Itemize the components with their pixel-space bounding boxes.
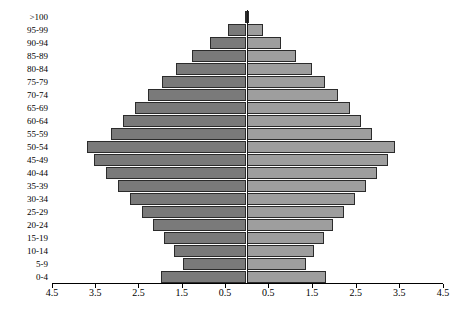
x-axis-tick-label: 4.5	[32, 287, 72, 298]
bar-right	[247, 115, 362, 127]
x-axis-tick-label: 1.5	[292, 287, 332, 298]
y-axis-tick-label: 75-79	[2, 76, 48, 89]
bar-left	[210, 37, 247, 49]
x-axis-tick	[399, 284, 400, 288]
bar-left	[111, 128, 247, 140]
y-axis-tick-label: 65-69	[2, 102, 48, 115]
x-axis-tick-label: 2.5	[336, 287, 376, 298]
bar-right	[247, 154, 388, 166]
y-axis-tick-label: >100	[2, 11, 48, 24]
bar-right	[247, 193, 355, 205]
bar-right	[247, 37, 281, 49]
population-pyramid-chart: >10095-9990-9485-8980-8475-7970-7465-696…	[0, 0, 463, 312]
x-axis-tick-label: 3.5	[75, 287, 115, 298]
y-axis-tick-label: 15-19	[2, 232, 48, 245]
bar-right	[247, 219, 334, 231]
bar-left	[130, 193, 247, 205]
y-axis-tick-label: 85-89	[2, 50, 48, 63]
y-axis-tick-label: 60-64	[2, 115, 48, 128]
x-axis-tick	[312, 284, 313, 288]
bar-right	[247, 76, 326, 88]
bar-left	[164, 232, 247, 244]
bar-right	[247, 141, 395, 153]
bar-left	[135, 102, 247, 114]
x-axis-tick	[443, 284, 444, 288]
x-axis-tick-label: 4.5	[423, 287, 463, 298]
bar-left	[123, 115, 247, 127]
bar-right	[247, 206, 344, 218]
bar-right	[247, 128, 373, 140]
bar-left	[176, 63, 246, 75]
x-axis-tick-label: 3.5	[379, 287, 419, 298]
y-axis-tick-label: 90-94	[2, 37, 48, 50]
x-axis-tick	[95, 284, 96, 288]
y-axis-tick-label: 50-54	[2, 141, 48, 154]
x-axis-tick-label: 2.5	[118, 287, 158, 298]
y-axis-tick-label: 20-24	[2, 219, 48, 232]
y-axis-tick-label: 40-44	[2, 167, 48, 180]
y-axis-tick-label: 30-34	[2, 193, 48, 206]
y-axis-tick-label: 70-74	[2, 89, 48, 102]
bar-right	[247, 258, 307, 270]
bar-left	[118, 180, 246, 192]
y-axis-tick-label: 95-99	[2, 24, 48, 37]
x-axis-tick	[138, 284, 139, 288]
bar-left	[148, 89, 247, 101]
x-axis-tick-label: 0.5	[248, 287, 288, 298]
bar-left	[142, 206, 247, 218]
x-axis-tick	[268, 284, 269, 288]
bar-left	[94, 154, 246, 166]
x-axis-tick	[225, 284, 226, 288]
x-axis-tick	[52, 284, 53, 288]
bar-left	[162, 76, 247, 88]
y-axis-labels: >10095-9990-9485-8980-8475-7970-7465-696…	[0, 0, 48, 312]
bar-left	[153, 219, 246, 231]
bar-left	[87, 141, 247, 153]
bar-left	[106, 167, 246, 179]
x-axis-tick-label: 0.5	[205, 287, 245, 298]
y-axis-tick-label: 55-59	[2, 128, 48, 141]
bar-right	[247, 24, 264, 36]
bar-right	[247, 50, 297, 62]
bar-left	[161, 271, 247, 283]
y-axis-tick-label: 25-29	[2, 206, 48, 219]
bar-right	[247, 180, 366, 192]
bar-right	[247, 102, 350, 114]
y-axis-tick-label: 45-49	[2, 154, 48, 167]
y-axis-tick-label: 35-39	[2, 180, 48, 193]
bar-right	[247, 89, 339, 101]
bar-right	[247, 232, 324, 244]
bar-left	[228, 24, 246, 36]
x-axis-tick-label: 1.5	[162, 287, 202, 298]
x-axis-tick	[356, 284, 357, 288]
bar-left	[183, 258, 247, 270]
y-axis-tick-label: 10-14	[2, 245, 48, 258]
bar-left	[174, 245, 247, 257]
bar-right	[247, 167, 377, 179]
center-axis-line	[247, 10, 248, 283]
bar-right	[247, 271, 327, 283]
bar-right	[247, 245, 315, 257]
bar-left	[192, 50, 246, 62]
y-axis-tick-label: 5-9	[2, 258, 48, 271]
bar-right	[247, 63, 312, 75]
y-axis-tick-label: 80-84	[2, 63, 48, 76]
x-axis-line	[52, 283, 443, 284]
y-axis-tick-label: 0-4	[2, 271, 48, 284]
x-axis-tick	[182, 284, 183, 288]
